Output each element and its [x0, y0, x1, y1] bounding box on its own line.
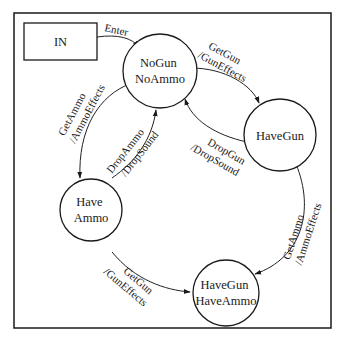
label-dropammo-dropsound: DropAmmo /DropSound: [104, 120, 161, 183]
state-diagram: IN NoGun NoAmmo HaveGun Have Ammo HaveGu…: [0, 0, 350, 354]
label-getammo-ammoeffects-right: GetAmmo /AmmoEffects: [280, 197, 324, 266]
edge-dropgun-to-nogun: [185, 99, 247, 142]
label-dropgun-dropsound: DropGun /DropSound: [189, 130, 250, 180]
state-havegun-label: HaveGun: [256, 129, 305, 143]
label-getgun-gun-effects-bottom: GetGun /GunEffects: [102, 255, 159, 308]
label-getammo-ammoeffects-left: GetAmmo /AmmoEffects: [55, 76, 107, 145]
label-getgun-gun-effects: GetGun /GunEffects: [196, 37, 254, 84]
state-havegun-haveammo: [193, 260, 259, 326]
initial-state-label: IN: [54, 35, 67, 49]
state-haveammo: [60, 179, 122, 241]
state-nogun-noammo: [123, 34, 197, 108]
label-enter: Enter: [104, 21, 130, 38]
